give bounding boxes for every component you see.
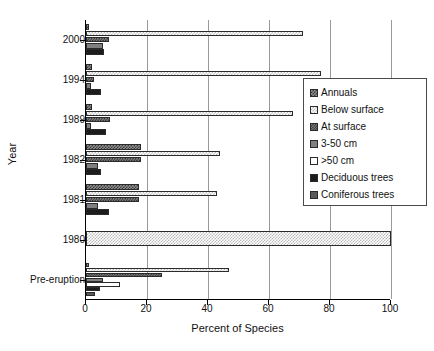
legend-label: At surface [321, 121, 366, 132]
y-tick-label-1989: 1989 [7, 114, 85, 125]
bar-1982-deciduous-trees [86, 169, 101, 175]
legend-item-at-surface: At surface [310, 118, 422, 135]
bar-pre-eruption-at-surface [86, 273, 162, 277]
bar-1981-deciduous-trees [86, 209, 109, 215]
bar-2000-3-50-cm [86, 43, 103, 49]
legend-swatch-icon [310, 123, 318, 131]
bar-pre-eruption--50-cm [86, 282, 120, 286]
legend-label: >50 cm [321, 155, 354, 166]
legend-item-annuals: Annuals [310, 84, 422, 101]
legend-label: Coniferous trees [321, 189, 394, 200]
y-tick-label-1982: 1982 [7, 154, 85, 165]
bar-2000-at-surface [86, 37, 109, 43]
legend-swatch-icon [310, 106, 318, 114]
legend-swatch-icon [310, 89, 318, 97]
category-group-1980 [86, 220, 390, 260]
bar-1981-below-surface [86, 191, 217, 197]
y-axis-title: Year [6, 124, 18, 184]
y-tick-label-1980: 1980 [7, 234, 85, 245]
bar-2000-annuals [86, 24, 89, 30]
bar-pre-eruption-deciduous-trees [86, 287, 100, 291]
bar-1994-below-surface [86, 71, 321, 77]
bar-1981-3-50-cm [86, 203, 98, 209]
bar-1994-deciduous-trees [86, 89, 101, 95]
bar-pre-eruption-coniferous-trees [86, 292, 95, 296]
legend-item-deciduous-trees: Deciduous trees [310, 169, 422, 186]
bar-1982-below-surface [86, 151, 220, 157]
legend-swatch-icon [310, 157, 318, 165]
legend-item-3-50-cm: 3-50 cm [310, 135, 422, 152]
bar-1982-annuals [86, 144, 141, 150]
category-group-2000 [86, 20, 390, 60]
bar-pre-eruption-below-surface [86, 268, 229, 272]
x-tick-label-60: 60 [248, 303, 288, 315]
y-tick-label-1994: 1994 [7, 74, 85, 85]
x-axis-title: Percent of Species [85, 322, 390, 334]
legend-label: Deciduous trees [321, 172, 393, 183]
bar-1980-below-surface [86, 231, 391, 246]
legend-item-coniferous-trees: Coniferous trees [310, 186, 422, 203]
legend-label: Annuals [321, 87, 357, 98]
chart-legend: AnnualsBelow surfaceAt surface3-50 cm>50… [303, 78, 427, 206]
legend-swatch-icon [310, 140, 318, 148]
x-tick-label-40: 40 [187, 303, 227, 315]
bar-pre-eruption-3-50-cm [86, 278, 103, 282]
category-group-pre-eruption [86, 260, 390, 300]
bar-1989-annuals [86, 104, 92, 110]
legend-swatch-icon [310, 174, 318, 182]
bar-1982-at-surface [86, 157, 141, 163]
bar-1989-at-surface [86, 117, 110, 123]
x-tick-label-20: 20 [126, 303, 166, 315]
y-tick-label-2000: 2000 [7, 34, 85, 45]
bar-2000-below-surface [86, 31, 303, 37]
bar-1982-3-50-cm [86, 163, 98, 169]
y-tick-label-pre-eruption: Pre-eruption [7, 274, 85, 285]
legend-label: 3-50 cm [321, 138, 357, 149]
bar-1989-3-50-cm [86, 123, 91, 129]
legend-swatch-icon [310, 191, 318, 199]
bar-chart: 020406080100 Percent of Species 20001994… [0, 0, 434, 351]
x-tick-label-80: 80 [309, 303, 349, 315]
bar-1994-3-50-cm [86, 83, 91, 89]
legend-item-below-surface: Below surface [310, 101, 422, 118]
legend-item--50-cm: >50 cm [310, 152, 422, 169]
legend-label: Below surface [321, 104, 384, 115]
bar-2000-deciduous-trees [86, 49, 104, 55]
bar-1981-annuals [86, 184, 139, 190]
bar-1994-at-surface [86, 77, 94, 83]
x-tick-label-100: 100 [370, 303, 410, 315]
bar-pre-eruption-annuals [86, 263, 89, 267]
y-tick-label-1981: 1981 [7, 194, 85, 205]
bar-1989-deciduous-trees [86, 129, 106, 135]
bar-1994-annuals [86, 64, 92, 70]
bar-1981-at-surface [86, 197, 139, 203]
bar-1989-below-surface [86, 111, 293, 117]
